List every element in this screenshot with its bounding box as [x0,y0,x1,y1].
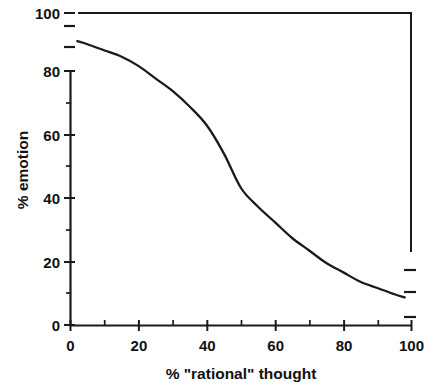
y-ticklabel-40: 40 [43,190,60,207]
y-ticklabel-100: 100 [35,5,60,22]
y-axis-tick-labels: 100 80 60 40 20 0 [35,5,60,334]
y-ticklabel-80: 80 [43,63,60,80]
x-ticklabel-0: 0 [66,337,74,354]
y-ticklabel-20: 20 [43,254,60,271]
x-ticklabel-100: 100 [399,337,424,354]
x-ticklabel-20: 20 [131,337,148,354]
x-axis-title: % "rational" thought [166,365,317,382]
y-axis-title: % emotion [14,131,31,209]
y-ticklabel-60: 60 [43,127,60,144]
chart-figure: 100 80 60 40 20 0 0 20 40 60 80 100 % "r… [0,0,438,391]
emotion-decline-curve [77,41,404,297]
emotion-vs-rational-thought-chart: 100 80 60 40 20 0 0 20 40 60 80 100 % "r… [0,0,438,391]
x-ticklabel-60: 60 [267,337,284,354]
right-edge-dashes [404,270,416,317]
x-axis-tick-labels: 0 20 40 60 80 100 [66,337,424,354]
x-ticklabel-40: 40 [199,337,216,354]
x-ticklabel-80: 80 [336,337,353,354]
left-edge-dashes [64,26,75,47]
y-ticklabel-0: 0 [52,317,60,334]
frame-decorations [78,13,412,252]
